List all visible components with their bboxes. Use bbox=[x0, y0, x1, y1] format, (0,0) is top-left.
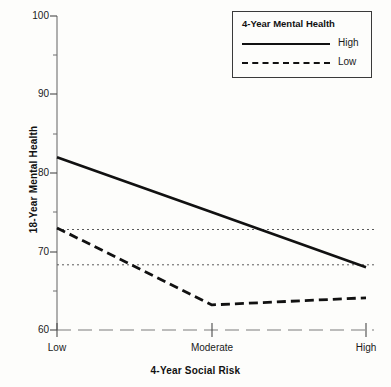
y-axis-title: 18-Year Mental Health bbox=[28, 100, 39, 260]
chart-figure: 100 90 80 70 60 Low Moderate High 18-Yea… bbox=[0, 0, 391, 387]
legend-label-high: High bbox=[338, 37, 359, 48]
legend-title: 4-Year Mental Health bbox=[242, 18, 335, 29]
y-tick-label-100: 100 bbox=[15, 10, 49, 21]
x-axis-title: 4-Year Social Risk bbox=[0, 365, 391, 376]
legend-swatch-dashed-icon bbox=[242, 62, 330, 64]
series-line-high bbox=[57, 157, 366, 267]
legend-swatch-solid-icon bbox=[242, 43, 330, 45]
x-tick-label-moderate: Moderate bbox=[177, 342, 247, 353]
y-tick-label-60: 60 bbox=[15, 324, 49, 335]
x-tick-label-low: Low bbox=[22, 342, 92, 353]
series-line-low bbox=[57, 228, 366, 305]
y-tick-label-90: 90 bbox=[15, 88, 49, 99]
legend-label-low: Low bbox=[338, 56, 356, 67]
y-axis-major-ticks bbox=[50, 16, 57, 330]
legend: 4-Year Mental Health High Low bbox=[232, 11, 372, 78]
x-tick-label-high: High bbox=[331, 342, 391, 353]
